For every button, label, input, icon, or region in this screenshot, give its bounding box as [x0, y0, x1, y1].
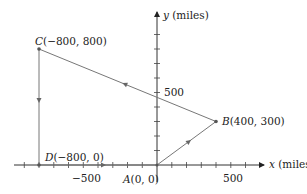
x-tick-label-500: 500	[223, 172, 243, 184]
x-axis-label: x (miles)	[269, 158, 307, 170]
point-label-b: B(400, 300)	[221, 115, 285, 127]
x-tick-label-neg500: −500	[72, 172, 101, 184]
arrow-b-c-icon	[121, 81, 128, 88]
y-axis-label: y (miles)	[162, 9, 209, 21]
travel-path	[39, 49, 216, 165]
segment-b-c	[39, 49, 216, 122]
segment-a-b	[157, 122, 216, 166]
arrow-d-a-icon	[101, 163, 106, 168]
point-c	[37, 47, 41, 51]
arrow-c-d-icon	[37, 98, 42, 103]
coordinate-diagram: C(−800, 800) B(400, 300) D(−800, 0) A(0,…	[0, 0, 307, 194]
point-label-d: D(−800, 0)	[44, 151, 104, 163]
y-tick-label-500: 500	[164, 86, 184, 98]
point-label-c: C(−800, 800)	[35, 35, 107, 47]
point-a	[156, 164, 159, 167]
point-label-a: A(0, 0)	[122, 173, 159, 185]
points	[37, 47, 218, 167]
point-b	[214, 120, 218, 124]
point-d	[37, 163, 41, 167]
